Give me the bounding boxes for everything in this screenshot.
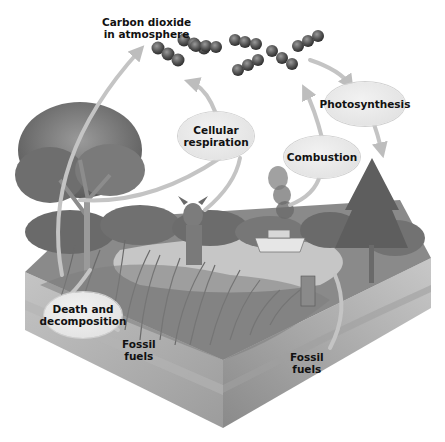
label-cellular-line2: respiration [183,136,248,148]
label-fossil-left-line2: fuels [122,350,156,362]
illustration [0,0,445,442]
carbon-cycle-diagram: Carbon dioxide in atmosphere Photosynthe… [0,0,445,442]
label-fossil-left-line1: Fossil [122,338,156,350]
label-co2-atmosphere: Carbon dioxide in atmosphere [102,16,191,40]
bubble-death-decomposition: Death and decomposition [44,292,122,338]
label-fossil-right-line1: Fossil [290,351,324,363]
label-co2-line2: in atmosphere [102,28,191,40]
label-photosynthesis: Photosynthesis [320,98,411,110]
label-cellular-respiration: Cellular respiration [183,124,248,148]
bubble-photosynthesis: Photosynthesis [325,82,405,126]
label-death-line1: Death and [40,303,127,315]
arrow-smoke-to-combustion [290,175,320,205]
label-death-decomposition: Death and decomposition [40,303,127,327]
bubble-cellular-respiration: Cellular respiration [178,112,254,160]
label-death-line2: decomposition [40,315,127,327]
label-fossil-fuels-left: Fossil fuels [122,338,156,362]
label-cellular-line1: Cellular [183,124,248,136]
tree-stump [301,276,315,306]
arrow-atmosphere-to-photosynthesis [310,60,350,85]
label-co2-line1: Carbon dioxide [102,16,191,28]
bubble-combustion: Combustion [284,136,360,178]
label-combustion: Combustion [287,151,357,163]
label-fossil-fuels-right: Fossil fuels [290,351,324,375]
label-fossil-right-line2: fuels [290,363,324,375]
